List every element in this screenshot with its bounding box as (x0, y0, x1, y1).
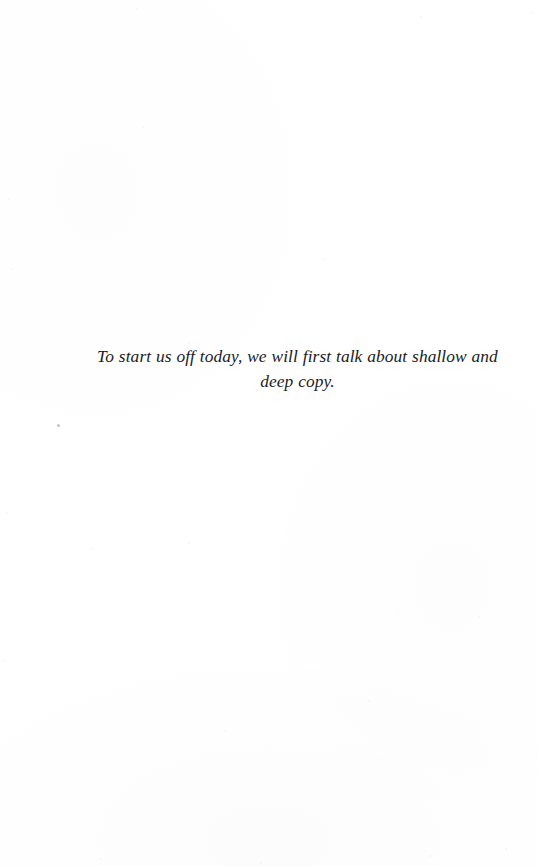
scan-noise-dot (6, 512, 8, 514)
scan-noise-dot (3, 660, 5, 662)
scan-noise-dot (136, 8, 138, 10)
scan-noise-dot (12, 268, 14, 270)
scan-noise-dot (142, 126, 144, 128)
scan-noise-dot (505, 848, 507, 850)
scan-speck-artifact (57, 424, 60, 427)
scan-noise-dot (368, 700, 370, 702)
epigraph-line-1: To start us off today, we will first tal… (74, 344, 521, 369)
scan-noise-dot (260, 862, 262, 864)
epigraph-line-2: deep copy. (74, 369, 521, 394)
epigraph-block: To start us off today, we will first tal… (74, 344, 521, 393)
scanned-book-page: To start us off today, we will first tal… (0, 0, 537, 866)
scan-noise-dot (530, 12, 532, 14)
scan-noise-dot (100, 858, 102, 860)
scan-noise-dot (224, 730, 226, 732)
scan-noise-dot (430, 855, 432, 857)
scan-noise-dot (92, 548, 94, 550)
scan-noise-dot (478, 616, 480, 618)
paper-texture-overlay (0, 0, 537, 866)
scan-noise-dot (420, 16, 422, 18)
scan-noise-dot (188, 542, 190, 544)
scan-noise-dot (322, 258, 324, 260)
scan-noise-dot (8, 198, 10, 200)
